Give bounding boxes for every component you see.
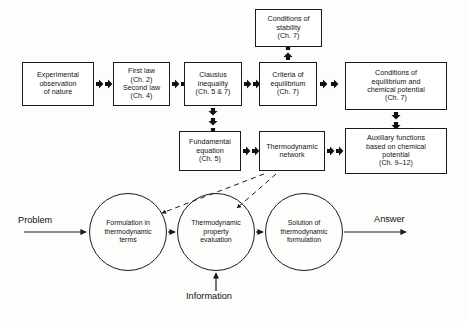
arrow-conditions-to-auxillary [391, 112, 400, 129]
node-first-second-law[interactable]: First law (Ch. 2) Second law (Ch. 4) [113, 62, 170, 106]
node-label: Criteria of equilibrium (Ch. 7) [262, 71, 314, 96]
node-thermodynamic-network[interactable]: Thermodynamic network [259, 131, 325, 171]
node-label: Conditions of equilibrium and chemical p… [348, 69, 444, 102]
arrow-experimental-to-firstlaw [96, 79, 112, 88]
arrow-fundamental-to-network [243, 146, 259, 155]
node-solution-of-thermodynamic-formulation[interactable]: Solution of thermodynamic formulation [265, 193, 343, 271]
node-label: Clausius inequality (Ch. 5 & 7) [187, 71, 239, 96]
node-auxillary-functions[interactable]: Auxillary functions based on chemical po… [345, 128, 447, 174]
node-label: Fundamental equation (Ch. 5) [182, 138, 238, 163]
node-label: First law (Ch. 2) Second law (Ch. 4) [116, 67, 167, 100]
node-conditions-of-stability[interactable]: Conditions of stability (Ch. 7) [255, 9, 322, 47]
node-fundamental-equation[interactable]: Fundamental equation (Ch. 5) [179, 131, 241, 171]
node-clausius-inequality[interactable]: Clausius inequality (Ch. 5 & 7) [184, 62, 242, 106]
node-label: Conditions of stability (Ch. 7) [258, 15, 319, 40]
node-criteria-of-equilibrium[interactable]: Criteria of equilibrium (Ch. 7) [259, 62, 317, 106]
node-experimental-observation[interactable]: Experimental observation of nature [22, 62, 94, 106]
node-label: Solution of thermodynamic formulation [266, 219, 342, 244]
node-label: Experimental observation of nature [25, 71, 91, 96]
node-formulation-in-thermodynamic-terms[interactable]: Formulation in thermodynamic terms [89, 193, 167, 271]
arrow-clausius-to-criteria [244, 79, 260, 88]
arrow-network-to-auxillary [327, 146, 343, 155]
label-information: Information [186, 291, 232, 301]
node-label: Formulation in thermodynamic terms [90, 219, 166, 244]
node-conditions-of-equilibrium-chemical-potential[interactable]: Conditions of equilibrium and chemical p… [345, 62, 447, 110]
node-label: Auxillary functions based on chemical po… [348, 134, 444, 167]
label-answer: Answer [374, 214, 405, 224]
node-thermodynamic-property-evaluation[interactable]: Thermodynamic property evaluation [177, 193, 255, 271]
arrow-criteria-to-conditions-equilibrium [320, 79, 338, 88]
node-label: Thermodynamic network [262, 143, 322, 160]
node-label: Thermodynamic property evaluation [178, 219, 254, 244]
label-problem: Problem [18, 215, 52, 225]
diagram-canvas: Conditions of stability (Ch. 7) Experime… [0, 0, 468, 321]
